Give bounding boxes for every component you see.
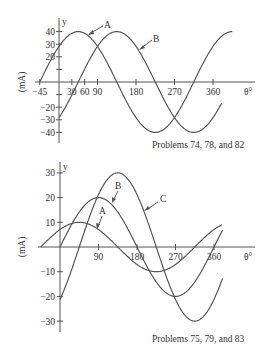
bottom-caption: Problems 75, 79, and 83 [152, 334, 244, 344]
svg-text:−45: −45 [32, 87, 47, 97]
svg-text:−20: −20 [40, 103, 55, 113]
label-a: A [99, 206, 106, 216]
x-axis-label: θ° [244, 87, 253, 97]
label-b: B [153, 34, 159, 44]
bottom-chart: 302010−10−20−30 90180270360 y θ° (mA) A … [17, 162, 255, 332]
svg-text:10: 10 [46, 218, 56, 228]
svg-text:360: 360 [206, 87, 221, 97]
label-b: B [115, 181, 121, 191]
top-caption: Problems 74, 78, and 82 [152, 140, 244, 150]
svg-text:270: 270 [167, 87, 182, 97]
label-a: A [104, 20, 111, 30]
svg-text:20: 20 [46, 193, 56, 203]
arrow-head-c [144, 206, 150, 211]
svg-text:−30: −30 [40, 317, 55, 327]
x-axis-label: θ° [244, 252, 253, 262]
svg-text:−40: −40 [40, 128, 55, 138]
top-chart: 403020−20−30−40 −45306090180270360 y θ° … [17, 17, 255, 143]
arrow-head-a [88, 30, 94, 35]
svg-text:90: 90 [94, 252, 104, 262]
charts-canvas: 403020−20−30−40 −45306090180270360 y θ° … [0, 0, 267, 357]
y-axis-name: y [62, 17, 67, 27]
y-axis-label: (mA) [17, 237, 28, 258]
svg-text:−10: −10 [40, 267, 55, 277]
label-c: C [160, 194, 166, 204]
svg-text:60: 60 [80, 87, 90, 97]
svg-text:−30: −30 [40, 115, 55, 125]
svg-text:−20: −20 [40, 292, 55, 302]
svg-text:90: 90 [93, 87, 103, 97]
svg-text:180: 180 [129, 87, 144, 97]
y-axis-label: (mA) [17, 72, 28, 93]
svg-text:30: 30 [46, 168, 56, 178]
svg-text:30: 30 [46, 40, 56, 50]
svg-text:40: 40 [46, 27, 56, 37]
y-axis-name: y [63, 162, 68, 172]
